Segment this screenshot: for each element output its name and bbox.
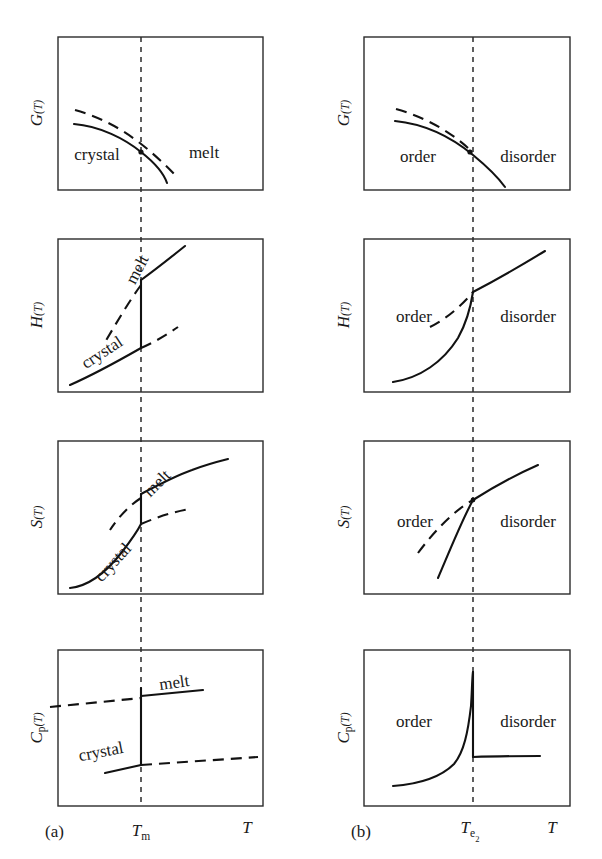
- x-axis-label-b: T: [547, 818, 558, 837]
- panel-b-Cp-label-order: order: [396, 712, 432, 731]
- x-axis-label-a: T: [242, 818, 253, 837]
- panel-b-Cp-label-disorder: disorder: [500, 712, 556, 731]
- panel-b-G-label-disorder: disorder: [500, 147, 556, 166]
- caption-b: (b): [351, 822, 371, 841]
- caption-a: (a): [45, 822, 64, 841]
- panel-b-H-label-disorder: disorder: [500, 307, 556, 326]
- panel-b-G-label-order: order: [400, 147, 436, 166]
- panel-b-S-label-order: order: [397, 512, 433, 531]
- figure-svg: G(T) crystal melt G(T) order disorder H(…: [0, 0, 602, 859]
- panel-b-G-crossing-point: [467, 149, 472, 154]
- panel-b-Cp-curve-disorder: [473, 756, 540, 757]
- panel-b-H-label-order: order: [396, 307, 432, 326]
- panel-a-G-label-melt: melt: [189, 143, 219, 162]
- panel-a-G-crossing-point: [138, 149, 143, 154]
- panel-b-S-label-disorder: disorder: [500, 512, 556, 531]
- panel-b-S-transition-point: [471, 498, 476, 503]
- phase-transition-figure: G(T) crystal melt G(T) order disorder H(…: [0, 0, 602, 859]
- panel-a-G-label-crystal: crystal: [74, 145, 120, 164]
